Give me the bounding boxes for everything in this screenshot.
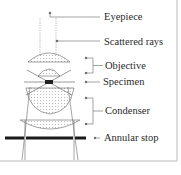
objective-lens-lower: [38, 69, 60, 76]
scattered-rays-lines: [40, 18, 56, 55]
condenser-lens-upper: [26, 88, 74, 114]
specimen: [45, 80, 53, 84]
label-eyepiece: Eyepiece: [104, 11, 143, 22]
condenser-lens-lower: [20, 120, 80, 129]
label-scattered-rays: Scattered rays: [104, 36, 163, 47]
label-objective: Objective: [105, 60, 146, 71]
label-annular-stop: Annular stop: [104, 132, 159, 143]
microscope-diagram: Eyepiece Scattered rays Objective Specim…: [0, 0, 181, 175]
objective-lens-upper: [28, 53, 70, 62]
label-specimen: Specimen: [103, 76, 145, 87]
label-condenser: Condenser: [105, 105, 150, 116]
